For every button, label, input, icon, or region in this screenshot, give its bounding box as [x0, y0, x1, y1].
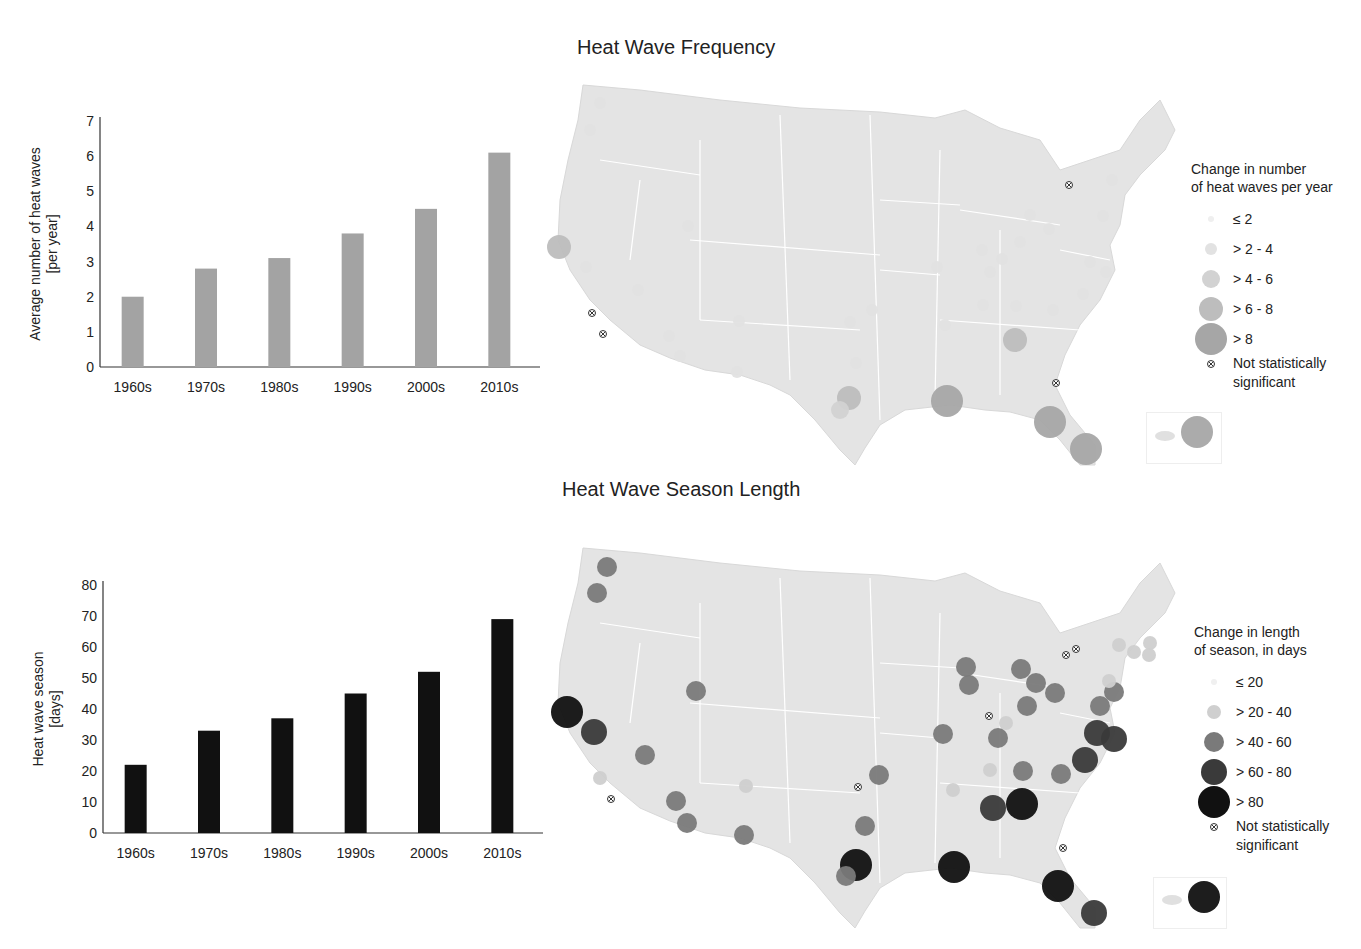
legend-label: > 60 - 80: [1236, 763, 1292, 781]
not-significant-icon: [986, 713, 993, 720]
legend-item: > 8: [1191, 324, 1333, 354]
station-circle: [1042, 870, 1074, 902]
legend-item: > 80: [1194, 787, 1329, 817]
station-circle: [983, 763, 997, 777]
not-significant-icon: [1060, 845, 1067, 852]
legend-circle-icon: [1191, 232, 1231, 266]
legend-title-line1: Change in number: [1191, 160, 1333, 178]
season-hawaii-inset: [1153, 877, 1227, 929]
not-significant-icon: [1063, 652, 1070, 659]
legend-label: > 40 - 60: [1236, 733, 1292, 751]
legend-item: > 40 - 60: [1194, 727, 1329, 757]
station-circle: [581, 719, 607, 745]
legend-title: Change in length of season, in days: [1194, 623, 1329, 659]
station-circle: [1127, 645, 1141, 659]
legend-circle-icon: [1194, 695, 1234, 729]
station-circle: [666, 791, 686, 811]
station-circle: [988, 728, 1008, 748]
not-significant-icon: [608, 796, 615, 803]
station-circle: [855, 816, 875, 836]
station-circle: [1011, 659, 1031, 679]
legend-title-line2: of season, in days: [1194, 641, 1329, 659]
station-circle: [946, 783, 960, 797]
not-significant-icon: [1073, 646, 1080, 653]
station-circle: [635, 745, 655, 765]
station-circle: [999, 716, 1013, 730]
legend-circle-icon: [1191, 322, 1231, 356]
station-circle: [1112, 638, 1126, 652]
station-circle: [959, 675, 979, 695]
station-circle: [836, 866, 856, 886]
station-circle: [587, 583, 607, 603]
legend-circle-icon: [1191, 262, 1231, 296]
legend-label: > 4 - 6: [1233, 270, 1273, 288]
station-circle: [1072, 747, 1098, 773]
legend-title-line1: Change in length: [1194, 623, 1329, 641]
legend-item: > 6 - 8: [1191, 294, 1333, 324]
legend-item-not-significant: Not statisticallysignificant: [1194, 817, 1329, 857]
station-circle: [597, 557, 617, 577]
legend-circle-icon: [1191, 202, 1231, 236]
station-circle: [1026, 673, 1046, 693]
frequency-hawaii-inset: [1146, 412, 1222, 464]
station-circle: [1101, 726, 1127, 752]
station-circle: [1143, 636, 1157, 650]
legend-item-not-significant: Not statisticallysignificant: [1191, 354, 1333, 394]
legend-label: ≤ 2: [1233, 210, 1252, 228]
not-significant-icon: [1208, 361, 1215, 368]
legend-label: > 8: [1233, 330, 1253, 348]
station-circle: [933, 724, 953, 744]
legend-item: ≤ 20: [1194, 667, 1329, 697]
legend-label: > 2 - 4: [1233, 240, 1273, 258]
station-circle: [1006, 788, 1038, 820]
legend-circle-icon: [1194, 725, 1234, 759]
station-circle: [1013, 761, 1033, 781]
station-circle: [869, 765, 889, 785]
not-significant-icon: [1194, 817, 1234, 833]
station-circle: [1102, 674, 1116, 688]
frequency-legend: Change in number of heat waves per year …: [1191, 160, 1333, 394]
station-circle: [1051, 764, 1071, 784]
legend-item: > 20 - 40: [1194, 697, 1329, 727]
station-circle: [980, 795, 1006, 821]
legend-title: Change in number of heat waves per year: [1191, 160, 1333, 196]
station-circle: [593, 771, 607, 785]
station-circle: [1142, 648, 1156, 662]
station-circle: [956, 657, 976, 677]
station-circle: [551, 696, 583, 728]
not-significant-icon: [855, 784, 862, 791]
station-circle: [1090, 696, 1110, 716]
not-significant-icon: [1211, 824, 1218, 831]
station-circle: [677, 813, 697, 833]
station-circle: [686, 681, 706, 701]
legend-label: ≤ 20: [1236, 673, 1263, 691]
legend-circle-icon: [1194, 785, 1234, 819]
legend-item: > 2 - 4: [1191, 234, 1333, 264]
station-circle: [739, 779, 753, 793]
legend-label: > 20 - 40: [1236, 703, 1292, 721]
station-circle: [1045, 683, 1065, 703]
legend-item: > 4 - 6: [1191, 264, 1333, 294]
legend-item: > 60 - 80: [1194, 757, 1329, 787]
legend-circle-icon: [1194, 665, 1234, 699]
season-legend: Change in length of season, in days ≤ 20…: [1194, 623, 1329, 857]
legend-circle-icon: [1191, 292, 1231, 326]
station-circle: [938, 851, 970, 883]
station-circle: [1017, 696, 1037, 716]
not-significant-icon: [1191, 354, 1231, 370]
legend-label: Not statisticallysignificant: [1236, 817, 1329, 853]
season-map: [0, 0, 1361, 949]
legend-label: > 6 - 8: [1233, 300, 1273, 318]
station-circle: [734, 825, 754, 845]
station-circle: [1081, 900, 1107, 926]
legend-label: Not statisticallysignificant: [1233, 354, 1326, 390]
legend-item: ≤ 2: [1191, 204, 1333, 234]
legend-label: > 80: [1236, 793, 1264, 811]
legend-title-line2: of heat waves per year: [1191, 178, 1333, 196]
legend-circle-icon: [1194, 755, 1234, 789]
